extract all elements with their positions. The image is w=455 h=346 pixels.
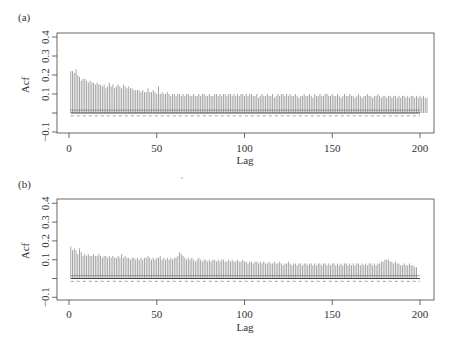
panel-a-y-axis-title: Acf [19,76,31,93]
panel-a-label: (a) [18,11,31,24]
y-tick-label: −0.1 [39,287,51,307]
x-tick-label: 150 [324,308,341,320]
panel-a-x-axis: 050100150200 [66,133,429,154]
x-tick-label: 100 [236,142,253,154]
y-tick-label: 0.4 [39,196,51,210]
y-tick-label: 0.3 [39,49,51,63]
panel-b-y-axis: −0.10.10.20.30.4 [39,196,57,307]
x-tick-label: 50 [151,308,163,320]
panel-a: (a) −0.10.10.20.30.4 050100150200 Acf La… [18,11,434,166]
x-tick-label: 0 [66,308,72,320]
y-tick-label: 0.4 [39,30,51,44]
x-tick-label: 150 [324,142,341,154]
panel-b-x-axis: 050100150200 [66,300,429,320]
x-tick-label: 100 [236,308,253,320]
panel-b-x-axis-title: Lag [236,321,254,333]
panel-a-bars [71,69,427,116]
panel-b: (b) −0.10.10.20.30.4 050100150200 Acf La… [18,178,434,333]
y-tick-label: 0.3 [39,215,51,229]
y-tick-label: −0.1 [39,122,51,142]
x-tick-label: 50 [151,142,163,154]
panel-a-y-axis: −0.10.10.20.30.4 [39,30,57,142]
y-tick-label: 0.1 [39,253,51,267]
x-tick-label: 200 [412,142,429,154]
panel-a-plot-frame [57,33,434,133]
acf-figure: (a) −0.10.10.20.30.4 050100150200 Acf La… [0,0,455,346]
y-tick-label: 0.1 [39,87,51,101]
panel-b-bars [71,247,420,282]
panel-a-x-axis-title: Lag [236,154,254,166]
y-tick-label: 0.2 [39,68,51,82]
panel-b-label: (b) [18,178,31,191]
panel-b-plot-frame [57,199,434,300]
x-tick-label: 200 [412,308,429,320]
y-tick-label: 0.2 [39,234,51,248]
x-tick-label: 0 [66,142,72,154]
stray-dot [181,177,183,179]
panel-b-y-axis-title: Acf [19,242,31,259]
